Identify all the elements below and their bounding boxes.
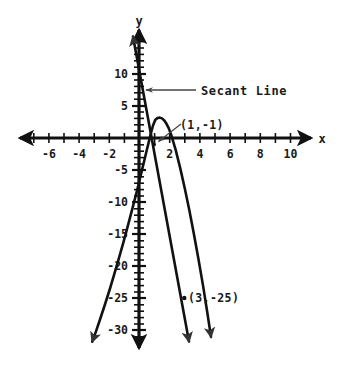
secant-line-annotation: Secant Line: [146, 84, 287, 98]
x-tick-label: -4: [72, 147, 86, 161]
x-tick-label: 10: [284, 147, 298, 161]
y-tick-label: -30: [107, 323, 128, 337]
point-marker-1-neg1: [152, 143, 156, 147]
x-tick-label: -2: [102, 147, 116, 161]
y-axis-label: y: [135, 14, 142, 28]
secant-line-annotation-label: Secant Line: [201, 84, 287, 98]
point-3-annotation-label: (3,-25): [188, 291, 239, 305]
x-tick-label: 6: [227, 147, 234, 161]
x-axis-label: x: [318, 132, 325, 146]
x-tick-label: 4: [196, 147, 203, 161]
x-tick-label: -6: [42, 147, 56, 161]
y-tick-label: -10: [107, 195, 128, 209]
point-marker-3-neg25: [182, 296, 186, 300]
x-tick-label: 2: [166, 147, 173, 161]
x-tick-label: 8: [257, 147, 264, 161]
y-tick-label: -25: [107, 291, 128, 305]
point-1-annotation-label: (1,-1): [180, 118, 224, 132]
y-tick-label: 5: [121, 99, 128, 113]
y-tick-label: -5: [114, 163, 128, 177]
graph-figure: x -6 -4 -2 2 4 6 8 10: [0, 0, 345, 374]
coordinate-plane: x -6 -4 -2 2 4 6 8 10: [0, 0, 345, 374]
y-tick-label: 10: [114, 67, 128, 81]
point-3-annotation: (3,-25): [188, 291, 239, 305]
